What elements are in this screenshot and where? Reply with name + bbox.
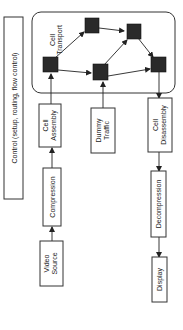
node-top-right [127, 24, 141, 39]
video-source-box: Video Source [40, 241, 63, 286]
control-box: Control (setup, routing, flow control) [4, 17, 23, 199]
node-middle [93, 64, 108, 80]
cell-transport-container: Cell Transport [32, 12, 175, 93]
cell-assembly-box: Cell Assembly [39, 104, 61, 147]
dummy-traffic-box: Dummy Traffic [91, 108, 115, 153]
node-ingress [43, 57, 58, 72]
cell-disassembly-label-1: Cell [152, 119, 159, 132]
cell-transport-label-1: Cell [49, 34, 56, 47]
dummy-traffic-label-2: Traffic [103, 120, 110, 140]
video-source-label-1: Video [43, 255, 50, 273]
dummy-traffic-label-1: Dummy [95, 118, 103, 143]
decompression-box: Decompression [151, 171, 166, 237]
system-diagram: Control (setup, routing, flow control) C… [0, 0, 183, 330]
display-box: Display [152, 257, 167, 302]
cell-assembly-label-1: Cell [42, 119, 49, 132]
decompression-label: Decompression [155, 180, 163, 229]
control-label: Control (setup, routing, flow control) [11, 53, 19, 164]
cell-assembly-label-2: Assembly [50, 110, 58, 141]
cell-transport-label-2: Transport [56, 25, 64, 55]
video-source-label-2: Source [51, 252, 58, 274]
node-egress [151, 57, 166, 72]
compression-label: Compression [49, 176, 57, 217]
display-label: Display [156, 268, 164, 291]
node-top [85, 18, 99, 33]
cell-disassembly-box: Cell Disassembly [148, 98, 172, 152]
cell-disassembly-label-2: Disassembly [160, 105, 168, 145]
compression-box: Compression [43, 168, 61, 226]
connectors [51, 72, 159, 257]
